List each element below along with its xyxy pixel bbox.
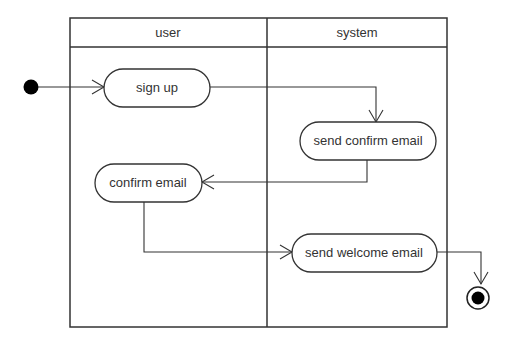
edge-sendconfirm-to-confirmemail — [202, 160, 367, 189]
action-label: sign up — [136, 80, 178, 95]
action-sign-up[interactable]: sign up — [104, 69, 210, 107]
action-send-welcome-email[interactable]: send welcome email — [292, 234, 437, 272]
action-label: confirm email — [109, 175, 186, 190]
activity-diagram: user system sign up send confirm email c… — [0, 0, 510, 347]
initial-node — [24, 80, 39, 95]
action-confirm-email[interactable]: confirm email — [95, 164, 202, 202]
edge-signup-to-sendconfirm — [210, 87, 383, 122]
lane-title-user: user — [155, 25, 181, 40]
action-send-confirm-email[interactable]: send confirm email — [300, 122, 436, 160]
action-label: send confirm email — [313, 133, 422, 148]
final-node — [467, 287, 489, 309]
action-label: send welcome email — [305, 245, 423, 260]
edge-confirmemail-to-sendwelcome — [144, 202, 292, 259]
lane-title-system: system — [336, 25, 377, 40]
edge-sendwelcome-to-end — [437, 252, 488, 284]
edge-start-to-signup — [38, 80, 104, 94]
